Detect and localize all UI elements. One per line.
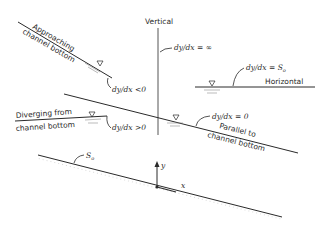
dy-so-label: dy/dx = So <box>246 63 286 73</box>
leader-arrow-icon <box>107 116 111 128</box>
leader-arrow-icon <box>233 68 244 86</box>
water-surface-symbol-icon <box>209 81 215 86</box>
approaching-surface: Approaching channel bottom dy/dx <0 <box>18 22 146 94</box>
x-axis-label: x <box>181 181 186 190</box>
leader-arrow-icon <box>196 116 210 126</box>
horizontal-label: Horizontal <box>265 77 303 86</box>
vertical-label: Vertical <box>145 17 173 26</box>
leader-arrow-icon <box>107 78 111 88</box>
origin-point <box>155 185 158 188</box>
horizontal-surface: dy/dx = So Horizontal <box>195 63 315 93</box>
coordinate-axes: y x <box>155 161 187 192</box>
water-surface-symbol-icon <box>97 61 103 66</box>
parallel-surface: dy/dx = 0 Parallel to channel bottom <box>64 94 298 153</box>
y-axis-label: y <box>160 161 166 170</box>
diverging-label-2: channel bottom <box>16 120 76 133</box>
water-surface-profile-diagram: Vertical dy/dx = ∞ Approaching channel b… <box>0 0 325 234</box>
slope-label: So <box>86 151 94 161</box>
arrow-up-icon <box>155 161 160 167</box>
dy-positive-label: dy/dx >0 <box>112 123 146 132</box>
dy-zero-label: dy/dx = 0 <box>212 112 249 121</box>
diagram-canvas: Vertical dy/dx = ∞ Approaching channel b… <box>0 0 325 234</box>
leader-arrow-icon <box>74 155 84 163</box>
leader-arrow-icon <box>160 48 172 52</box>
dy-negative-label: dy/dx <0 <box>112 85 146 94</box>
water-surface-symbol-icon <box>173 115 179 120</box>
diverging-surface: Diverging from channel bottom dy/dx >0 <box>15 107 146 133</box>
dy-infinity-label: dy/dx = ∞ <box>174 43 212 52</box>
